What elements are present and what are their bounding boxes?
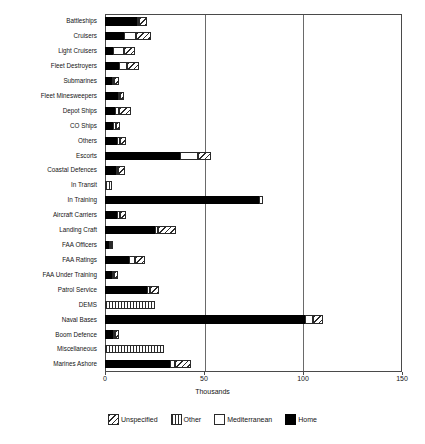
legend-item[interactable]: Unspecified: [108, 414, 158, 425]
bar-row: [105, 342, 402, 357]
bar-row: [105, 327, 402, 342]
bar-row: [105, 267, 402, 282]
legend-swatch-icon: [214, 414, 225, 425]
y-axis-label: Patrol Service: [58, 287, 97, 293]
stacked-bar: [105, 152, 211, 160]
stacked-bar: [105, 166, 125, 174]
x-tick-label: 0: [103, 375, 107, 382]
bar-segment-home: [105, 315, 305, 323]
stacked-bar: [105, 32, 151, 40]
bar-row: [105, 223, 402, 238]
y-axis-label: DEMS: [79, 302, 97, 308]
y-axis-label: Depot Ships: [63, 108, 97, 114]
bar-segment-home: [105, 271, 112, 279]
x-tick-label: 150: [396, 375, 408, 382]
y-axis-label: FAA Ratings: [62, 257, 97, 263]
bar-segment-unspecified: [120, 211, 126, 219]
y-axis-label: Others: [78, 138, 97, 144]
bar-row: [105, 193, 402, 208]
stacked-bar: [105, 330, 119, 338]
bar-row: [105, 357, 402, 372]
bar-segment-unspecified: [135, 256, 145, 264]
bar-row: [105, 103, 402, 118]
bar-segment-mediterranean: [180, 152, 198, 160]
bar-row: [105, 118, 402, 133]
bar-row: [105, 163, 402, 178]
bar-segment-home: [105, 77, 112, 85]
bar-segment-unspecified: [175, 360, 191, 368]
bar-segment-unspecified: [114, 271, 118, 279]
bar-segment-unspecified: [136, 32, 151, 40]
bar-segment-unspecified: [198, 152, 211, 160]
bar-segment-home: [105, 360, 170, 368]
y-axis-label: In Training: [68, 197, 97, 203]
bar-segment-home: [105, 226, 155, 234]
bar-segment-home: [105, 107, 115, 115]
bar-segment-unspecified: [158, 226, 176, 234]
bar-segment-unspecified: [139, 17, 147, 25]
bar-segment-unspecified: [116, 122, 120, 130]
bar-segment-other: [105, 301, 155, 309]
bar-segment-home: [105, 166, 116, 174]
y-axis-label: Miscellaneous: [57, 346, 97, 352]
y-axis-label: CO Ships: [70, 123, 97, 129]
x-tick-label: 100: [297, 375, 309, 382]
stacked-bar: [105, 196, 263, 204]
x-axis-ticks: 050100150: [0, 372, 425, 386]
stacked-bar: [105, 271, 118, 279]
y-axis-label: Fleet Minesweepers: [41, 93, 97, 99]
y-axis-label: Battleships: [66, 18, 97, 24]
legend-label: Mediterranean: [227, 416, 272, 423]
stacked-bar: [105, 241, 113, 249]
bar-row: [105, 312, 402, 327]
bar-row: [105, 74, 402, 89]
legend-label: Home: [298, 416, 317, 423]
legend-label: Unspecified: [121, 416, 158, 423]
legend-item[interactable]: Other: [171, 414, 202, 425]
y-axis-label: Fleet Destroyers: [51, 63, 97, 69]
bar-segment-unspecified: [150, 286, 160, 294]
stacked-bar: [105, 360, 191, 368]
stacked-bar: [105, 211, 126, 219]
bar-segment-home: [105, 196, 259, 204]
bar-row: [105, 29, 402, 44]
stacked-bar: [105, 345, 164, 353]
bar-segment-unspecified: [119, 107, 131, 115]
bar-segment-mediterranean: [113, 47, 124, 55]
bar-segment-unspecified: [115, 330, 119, 338]
stacked-bar: [105, 122, 120, 130]
stacked-bar: [105, 17, 147, 25]
stacked-bar: [105, 301, 155, 309]
bar-row: [105, 133, 402, 148]
bar-row: [105, 14, 402, 29]
stacked-bar: [105, 315, 323, 323]
bar-segment-other: [105, 181, 112, 189]
legend-item[interactable]: Mediterranean: [214, 414, 272, 425]
bar-segment-other: [105, 345, 164, 353]
bar-segment-home: [105, 32, 124, 40]
bar-row: [105, 59, 402, 74]
bar-segment-home: [105, 256, 129, 264]
y-axis-label: Naval Bases: [62, 317, 97, 323]
bar-segment-unspecified: [114, 77, 119, 85]
bar-segment-unspecified: [120, 137, 126, 145]
bar-rows: [105, 14, 402, 372]
x-tick-label: 50: [200, 375, 208, 382]
bar-row: [105, 148, 402, 163]
x-axis-title: Thousands: [0, 388, 425, 395]
y-axis-label: Light Cruisers: [58, 48, 97, 54]
bar-row: [105, 253, 402, 268]
y-axis-labels: BattleshipsCruisersLight CruisersFleet D…: [0, 14, 101, 372]
bar-segment-home: [105, 286, 147, 294]
bar-segment-unspecified: [127, 62, 139, 70]
stacked-bar: [105, 62, 139, 70]
stacked-bar: [105, 47, 135, 55]
bar-segment-home: [105, 137, 117, 145]
bar-segment-home: [105, 152, 180, 160]
legend-item[interactable]: Home: [285, 414, 317, 425]
bar-segment-unspecified: [313, 315, 323, 323]
y-axis-label: Coastal Defences: [47, 167, 97, 173]
bar-row: [105, 44, 402, 59]
bar-row: [105, 178, 402, 193]
bar-row: [105, 89, 402, 104]
